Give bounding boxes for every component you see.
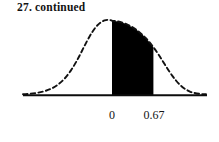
figure-page: 27. continued 0 0.67 <box>0 0 219 142</box>
tick-label-zero: 0 <box>101 108 123 123</box>
tick-label-point-six-seven: 0.67 <box>133 108 175 123</box>
shaded-area-region <box>112 21 153 95</box>
